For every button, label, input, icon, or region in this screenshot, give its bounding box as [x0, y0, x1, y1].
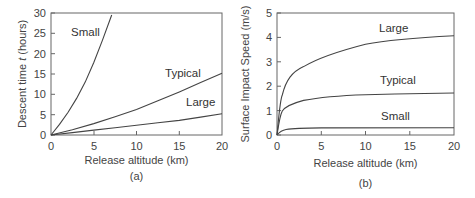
series-large-b — [277, 36, 454, 135]
x-tick-label: 15 — [173, 140, 185, 152]
x-tick-labels-a: 0 5 10 15 20 — [48, 140, 228, 152]
series-label-large-b: Large — [379, 22, 408, 34]
y-tick-label: 0 — [266, 129, 272, 141]
y-tick-label: 2 — [266, 80, 272, 92]
x-tick-label: 0 — [274, 140, 280, 152]
y-ticks-a — [51, 13, 55, 135]
y-tick-label: 25 — [34, 27, 46, 39]
y-axis-label-a: Descent time t (hours) — [16, 20, 28, 128]
x-ticks-b — [321, 131, 410, 135]
series-label-typical-b: Typical — [380, 74, 416, 86]
x-tick-label: 15 — [404, 140, 416, 152]
series-label-typical-a: Typical — [165, 67, 201, 79]
y-tick-label: 5 — [40, 109, 46, 121]
y-tick-label: 20 — [34, 48, 46, 60]
y-tick-labels-b: 0 1 2 3 4 5 — [266, 7, 272, 141]
y-tick-label: 10 — [34, 88, 46, 100]
x-axis-label-a: Release altitude (km) — [85, 154, 189, 166]
curves-b — [277, 36, 454, 135]
figure: 0 5 10 15 20 25 30 0 5 10 15 20 Release … — [0, 0, 475, 198]
panel-label-b: (b) — [359, 177, 372, 189]
series-label-large-a: Large — [186, 96, 215, 108]
x-axis-label-b: Release altitude (km) — [314, 157, 418, 169]
x-tick-label: 5 — [318, 140, 324, 152]
y-tick-label: 5 — [266, 7, 272, 19]
chart-a: 0 5 10 15 20 25 30 0 5 10 15 20 Release … — [16, 7, 228, 182]
x-ticks-a — [94, 131, 179, 135]
x-tick-labels-b: 0 5 10 15 20 — [274, 140, 460, 152]
chart-b: 0 1 2 3 4 5 0 5 10 15 20 Release altitud… — [239, 6, 460, 189]
y-tick-label: 30 — [34, 7, 46, 19]
x-tick-label: 0 — [48, 140, 54, 152]
x-tick-label: 20 — [448, 140, 460, 152]
y-tick-label: 1 — [266, 105, 272, 117]
x-tick-label: 10 — [359, 140, 371, 152]
y-axis-label-b: Surface Impact Speed (m/s) — [239, 6, 251, 143]
series-label-small-b: Small — [381, 110, 410, 122]
plot-frame-b — [277, 13, 454, 135]
y-tick-label: 3 — [266, 56, 272, 68]
panel-label-a: (a) — [130, 170, 143, 182]
x-tick-label: 10 — [130, 140, 142, 152]
series-label-small-a: Small — [71, 26, 100, 38]
x-tick-label: 5 — [91, 140, 97, 152]
y-tick-label: 4 — [266, 31, 272, 43]
y-tick-labels-a: 0 5 10 15 20 25 30 — [34, 7, 46, 141]
x-tick-label: 20 — [216, 140, 228, 152]
y-tick-label: 15 — [34, 68, 46, 80]
y-tick-label: 0 — [40, 129, 46, 141]
